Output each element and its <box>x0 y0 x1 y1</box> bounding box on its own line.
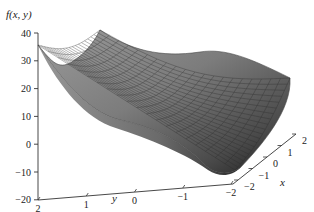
x-tick-label: 0 <box>273 158 278 169</box>
y-tick-label: −2 <box>226 187 237 198</box>
x-axis-label: x <box>279 176 285 188</box>
y-axis: 210−1−2 y <box>36 181 237 212</box>
z-tick-label: 0 <box>26 139 31 150</box>
z-tick-label: −20 <box>15 194 31 205</box>
z-axis: 403020100−10−20 f(x, y) <box>6 8 38 205</box>
x-tick-label: 2 <box>302 135 307 146</box>
z-tick-label: 40 <box>21 28 31 39</box>
x-tick-label: −1 <box>259 170 270 181</box>
y-tick-label: −1 <box>177 191 188 202</box>
x-tick-label: −2 <box>244 181 255 192</box>
y-tick-label: 0 <box>132 195 137 206</box>
surface <box>38 30 290 175</box>
z-tick-label: 30 <box>21 55 31 66</box>
x-tick-label: 1 <box>288 147 293 158</box>
y-tick-label: 1 <box>84 199 89 210</box>
y-tick-label: 2 <box>36 203 41 212</box>
z-tick-label: −10 <box>15 167 31 178</box>
z-axis-label: f(x, y) <box>6 8 32 21</box>
y-axis-label: y <box>111 192 117 204</box>
surface-plot: 403020100−10−20 f(x, y) 210−1−2 y −2−101… <box>0 0 314 212</box>
z-tick-label: 10 <box>21 111 31 122</box>
z-tick-label: 20 <box>21 83 31 94</box>
